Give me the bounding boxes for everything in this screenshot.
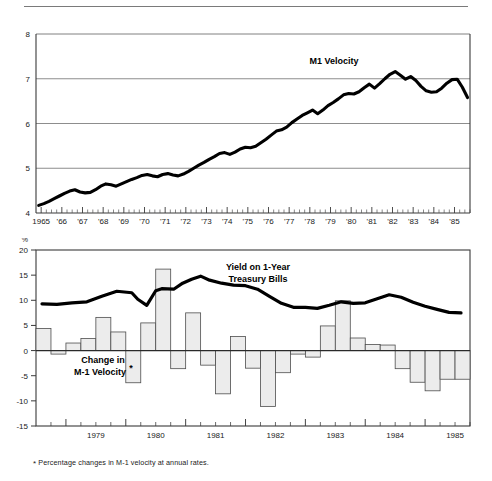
footnote-text: Percentage changes in M-1 velocity at an… xyxy=(38,458,209,467)
velocity-change-bar xyxy=(66,343,81,351)
y-tick-label: 15 xyxy=(19,271,28,280)
velocity-change-bar xyxy=(365,345,380,351)
x-tick-label: '66 xyxy=(57,217,68,226)
velocity-change-bar xyxy=(440,351,455,380)
velocity-change-bar xyxy=(216,351,231,394)
velocity-change-bar xyxy=(350,338,365,351)
y-tick-label: 10 xyxy=(19,296,28,305)
velocity-change-bar xyxy=(380,345,395,351)
velocity-change-bar xyxy=(320,326,335,351)
velocity-change-bar xyxy=(275,351,290,373)
x-tick-label: 1965 xyxy=(32,217,50,226)
velocity-change-and-yield-chart: -15-10-505101520%19791980198119821983198… xyxy=(0,238,492,453)
y-tick-label: 4 xyxy=(26,209,31,218)
velocity-change-bar xyxy=(36,328,51,350)
bars-series-label-line2: M-1 Velocity xyxy=(74,367,126,377)
x-tick-label: '82 xyxy=(387,217,398,226)
yield-series-label-line1: Yield on 1-Year xyxy=(226,262,291,272)
x-tick-label: '75 xyxy=(243,217,254,226)
x-tick-label: 1984 xyxy=(386,431,404,440)
x-tick-label: '74 xyxy=(222,217,233,226)
velocity-change-bar xyxy=(111,332,126,351)
velocity-change-bar xyxy=(246,351,261,369)
velocity-change-bar xyxy=(201,351,216,366)
x-tick-label: '80 xyxy=(346,217,357,226)
velocity-change-bar xyxy=(171,351,186,369)
x-tick-label: '73 xyxy=(201,217,212,226)
velocity-change-bar xyxy=(335,301,350,351)
bars-series-label-footnote-marker: * xyxy=(129,363,133,373)
x-tick-label: 1980 xyxy=(147,431,165,440)
y-tick-label: -10 xyxy=(16,397,28,406)
x-tick-label: 1983 xyxy=(326,431,344,440)
velocity-change-bar xyxy=(156,269,171,350)
velocity-change-bar xyxy=(305,351,320,358)
velocity-change-bar xyxy=(126,351,141,383)
velocity-change-bar xyxy=(395,351,410,369)
x-tick-label: 1982 xyxy=(267,431,285,440)
x-tick-label: '78 xyxy=(305,217,316,226)
x-tick-label: '70 xyxy=(139,217,150,226)
velocity-change-bar xyxy=(455,351,470,380)
y-tick-label: 7 xyxy=(26,75,31,84)
x-tick-label: '84 xyxy=(429,217,440,226)
x-tick-label: 1981 xyxy=(207,431,225,440)
x-tick-label: '72 xyxy=(181,217,192,226)
y-tick-label: -5 xyxy=(21,372,29,381)
y-tick-label: 5 xyxy=(26,164,31,173)
footnote: * Percentage changes in M-1 velocity at … xyxy=(33,458,209,468)
x-tick-label: '85 xyxy=(449,217,460,226)
m1-velocity-line xyxy=(39,72,468,206)
velocity-change-bar xyxy=(141,323,156,351)
velocity-change-bar xyxy=(425,351,440,391)
x-tick-label: '76 xyxy=(263,217,274,226)
y-tick-label: -15 xyxy=(16,422,28,431)
y-tick-label: 0 xyxy=(24,347,29,356)
y-tick-label: 8 xyxy=(26,30,31,39)
y-tick-label: 20 xyxy=(19,246,28,255)
x-tick-label: '69 xyxy=(119,217,130,226)
x-tick-label: 1985 xyxy=(446,431,464,440)
velocity-change-bar xyxy=(186,313,201,351)
top-rule-divider xyxy=(24,6,468,7)
x-tick-label: '68 xyxy=(98,217,109,226)
m1-velocity-line-chart: 456781965'66'67'68'69'70'71'72'73'74'75'… xyxy=(0,16,492,248)
velocity-change-bar xyxy=(81,339,96,351)
y-tick-label: 6 xyxy=(26,120,31,129)
m1-velocity-series-label: M1 Velocity xyxy=(309,56,358,66)
velocity-change-bar xyxy=(96,317,111,350)
yield-series-label-line2: Treasury Bills xyxy=(228,274,287,284)
x-tick-label: '71 xyxy=(160,217,171,226)
x-tick-label: '77 xyxy=(284,217,295,226)
velocity-change-bar xyxy=(231,336,246,350)
x-tick-label: '83 xyxy=(408,217,419,226)
x-tick-label: 1979 xyxy=(87,431,105,440)
figure-container: 456781965'66'67'68'69'70'71'72'73'74'75'… xyxy=(0,0,492,481)
x-tick-label: '67 xyxy=(77,217,88,226)
x-tick-label: '79 xyxy=(325,217,336,226)
velocity-change-bar xyxy=(260,351,275,407)
x-tick-label: '81 xyxy=(367,217,378,226)
velocity-change-bar xyxy=(410,351,425,383)
bars-series-label-line1: Change in xyxy=(81,355,125,365)
y-axis-unit-label: % xyxy=(22,238,28,243)
y-tick-label: 5 xyxy=(24,321,29,330)
footnote-marker: * xyxy=(33,459,36,468)
